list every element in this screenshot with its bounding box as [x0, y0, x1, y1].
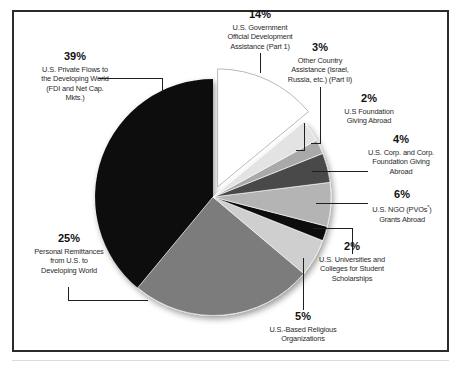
label-foundation-percent: 2% — [318, 92, 420, 105]
label-corporate: 4% U.S. Corp. and Corp. Foundation Givin… — [348, 133, 454, 176]
chart-figure: 14% U.S. Government Official Development… — [0, 0, 461, 365]
label-remittances-line2: from U.S. to — [14, 256, 124, 266]
label-remittances-line3: Developing World — [14, 266, 124, 276]
label-corporate-percent: 4% — [348, 133, 454, 146]
label-ngo: 6% U.S. NGO (PVOs*) Grants Abroad — [351, 188, 453, 224]
label-religious-percent: 5% — [251, 310, 355, 323]
label-private-flows-line3: (FDI and Net Cap. — [19, 84, 131, 94]
label-foundation-line1: U.S Foundation — [318, 107, 420, 117]
label-private-flows-line1: U.S. Private Flows to — [19, 65, 131, 75]
label-remittances-percent: 25% — [14, 232, 124, 245]
label-corporate-line2: Foundation Giving — [348, 157, 454, 167]
label-gov-oda-line1: U.S. Government — [187, 23, 333, 33]
label-ngo-percent: 6% — [351, 188, 453, 201]
label-foundation-line2: Giving Abroad — [318, 116, 420, 126]
label-foundation: 2% U.S Foundation Giving Abroad — [318, 92, 420, 126]
label-other-country-line3: Russia, etc.) (Part II) — [268, 75, 372, 85]
label-corporate-line1: U.S. Corp. and Corp. — [348, 148, 454, 158]
label-other-country-line2: Assistance (Israel, — [268, 65, 372, 75]
label-universities-percent: 2% — [300, 240, 404, 253]
label-private-flows: 39% U.S. Private Flows to the Developing… — [19, 50, 131, 103]
label-ngo-line1: U.S. NGO (PVOs*) — [351, 203, 453, 215]
footer-divider — [12, 360, 449, 361]
label-gov-oda-percent: 14% — [187, 8, 333, 21]
leader-line-remittances — [68, 287, 148, 300]
label-universities-line1: U.S. Universities and — [300, 255, 404, 265]
label-other-country: 3% Other Country Assistance (Israel, Rus… — [268, 41, 372, 84]
label-ngo-line1-close: ) — [429, 205, 431, 214]
label-religious: 5% U.S.-Based Religious Organizations — [251, 310, 355, 344]
label-remittances-line1: Personal Remittances — [14, 247, 124, 257]
label-other-country-line1: Other Country — [268, 56, 372, 66]
label-religious-line2: Organizations — [251, 334, 355, 344]
label-ngo-line2: Grants Abroad — [351, 215, 453, 225]
label-universities-line3: Scholarships — [300, 274, 404, 284]
label-universities-line2: Colleges for Student — [300, 264, 404, 274]
label-private-flows-percent: 39% — [19, 50, 131, 63]
label-universities: 2% U.S. Universities and Colleges for St… — [300, 240, 404, 283]
label-corporate-line3: Abroad — [348, 167, 454, 177]
label-private-flows-line4: Mkts.) — [19, 93, 131, 103]
label-private-flows-line2: the Developing World — [19, 74, 131, 84]
label-religious-line1: U.S.-Based Religious — [251, 325, 355, 335]
label-ngo-line1-text: U.S. NGO (PVOs — [372, 205, 427, 214]
label-remittances: 25% Personal Remittances from U.S. to De… — [14, 232, 124, 275]
label-other-country-percent: 3% — [268, 41, 372, 54]
